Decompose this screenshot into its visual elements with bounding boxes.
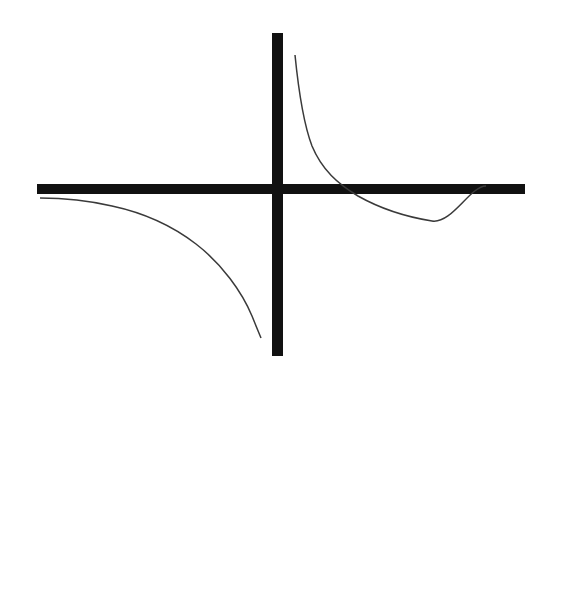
hyperbola-figure bbox=[0, 0, 580, 380]
y-axis bbox=[272, 33, 283, 356]
hyperbola-branch-upper-right bbox=[295, 55, 486, 221]
hyperbola-svg bbox=[0, 0, 580, 380]
definition-cards-row: a The prefix a means “not.” sym The pref… bbox=[0, 380, 580, 596]
hyperbola-branch-lower-left bbox=[40, 198, 261, 338]
